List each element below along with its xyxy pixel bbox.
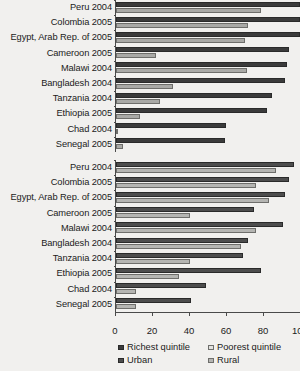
axis-tick (226, 313, 227, 316)
chart-row: Senegal 2005 (0, 137, 300, 152)
category-label: Tanzania 2004 (0, 91, 115, 106)
bars-cell (115, 15, 300, 30)
bar-1 (116, 53, 156, 58)
legend-label: Poorest quintile (217, 342, 281, 352)
plot-area-top: Peru 2004Colombia 2005Egypt, Arab Rep. o… (0, 0, 300, 152)
axis-tick-label: 20 (147, 324, 158, 337)
bars-cell (115, 221, 300, 236)
legend-label: Rural (217, 355, 239, 365)
axis-tick (152, 313, 153, 316)
legend-swatch-icon (208, 345, 214, 351)
axis-spacer (0, 312, 115, 324)
bars-cell (115, 122, 300, 137)
chart-panel-top: Peru 2004Colombia 2005Egypt, Arab Rep. o… (0, 0, 300, 160)
bar-1 (116, 114, 140, 119)
category-label: Peru 2004 (0, 160, 115, 175)
category-label: Chad 2004 (0, 282, 115, 297)
x-axis (0, 312, 300, 324)
bar-1 (116, 84, 173, 89)
chart-row: Ethiopia 2005 (0, 266, 300, 281)
bar-0 (116, 108, 267, 113)
legend-swatch-icon (118, 345, 124, 351)
plot-area-bottom: Peru 2004Colombia 2005Egypt, Arab Rep. o… (0, 160, 300, 312)
bar-1 (116, 228, 256, 233)
category-label: Senegal 2005 (0, 137, 115, 152)
bar-1 (116, 213, 190, 218)
chart-row: Colombia 2005 (0, 15, 300, 30)
category-label: Egypt, Arab Rep. of 2005 (0, 190, 115, 205)
bar-0 (116, 283, 206, 288)
axis-tick-label: 100 (292, 324, 300, 337)
chart-legend: Richest quintilePoorest quintileUrbanRur… (0, 341, 300, 367)
category-label: Malawi 2004 (0, 61, 115, 76)
axis-tick (189, 313, 190, 316)
category-label: Colombia 2005 (0, 15, 115, 30)
legend-swatch-icon (208, 358, 214, 364)
category-label: Ethiopia 2005 (0, 106, 115, 121)
bar-0 (116, 238, 248, 243)
bar-1 (116, 8, 261, 13)
bar-1 (116, 304, 136, 309)
category-label: Ethiopia 2005 (0, 266, 115, 281)
category-label: Egypt, Arab Rep. of 2005 (0, 30, 115, 45)
bar-0 (116, 2, 300, 7)
chart-row: Ethiopia 2005 (0, 106, 300, 121)
chart-panel-bottom: Peru 2004Colombia 2005Egypt, Arab Rep. o… (0, 160, 300, 310)
bar-0 (116, 123, 226, 128)
bars-cell (115, 266, 300, 281)
chart-row: Egypt, Arab Rep. of 2005 (0, 30, 300, 45)
axis-line (115, 312, 300, 324)
category-label: Senegal 2005 (0, 297, 115, 312)
category-label: Bangladesh 2004 (0, 76, 115, 91)
chart-row: Chad 2004 (0, 282, 300, 297)
legend-item[interactable]: Poorest quintile (208, 342, 281, 352)
bars-cell (115, 0, 300, 15)
chart-row: Chad 2004 (0, 122, 300, 137)
legend-swatch-icon (118, 358, 124, 364)
bar-1 (116, 289, 136, 294)
bar-0 (116, 162, 294, 167)
axis-tick (263, 313, 264, 316)
bar-0 (116, 192, 285, 197)
bar-1 (116, 23, 248, 28)
chart-row: Bangladesh 2004 (0, 76, 300, 91)
bar-1 (116, 259, 190, 264)
bar-0 (116, 47, 289, 52)
bar-1 (116, 274, 179, 279)
legend-label: Urban (127, 355, 152, 365)
bars-cell (115, 251, 300, 266)
bars-cell (115, 282, 300, 297)
bar-0 (116, 222, 283, 227)
category-label: Colombia 2005 (0, 175, 115, 190)
bar-0 (116, 17, 300, 22)
bar-1 (116, 38, 245, 43)
bars-cell (115, 91, 300, 106)
legend-label: Richest quintile (127, 342, 190, 352)
bar-0 (116, 177, 289, 182)
bar-0 (116, 62, 287, 67)
chart-row: Cameroon 2005 (0, 46, 300, 61)
bars-cell (115, 76, 300, 91)
bar-1 (116, 183, 256, 188)
chart-row: Peru 2004 (0, 0, 300, 15)
chart-row: Colombia 2005 (0, 175, 300, 190)
legend-item[interactable]: Rural (208, 355, 239, 365)
legend-line: UrbanRural (118, 354, 300, 367)
axis-tick-label: 0 (112, 324, 117, 337)
category-label: Bangladesh 2004 (0, 236, 115, 251)
category-label: Cameroon 2005 (0, 46, 115, 61)
chart-row: Bangladesh 2004 (0, 236, 300, 251)
category-label: Peru 2004 (0, 0, 115, 15)
chart-row: Egypt, Arab Rep. of 2005 (0, 190, 300, 205)
chart-row: Malawi 2004 (0, 61, 300, 76)
bar-1 (116, 244, 241, 249)
bars-cell (115, 175, 300, 190)
bar-1 (116, 198, 269, 203)
axis-tick (115, 313, 116, 316)
category-label: Tanzania 2004 (0, 251, 115, 266)
legend-line: Richest quintilePoorest quintile (118, 341, 300, 354)
legend-item[interactable]: Richest quintile (118, 342, 208, 352)
bar-0 (116, 268, 261, 273)
chart-page: Peru 2004Colombia 2005Egypt, Arab Rep. o… (0, 0, 300, 371)
legend-item[interactable]: Urban (118, 355, 208, 365)
